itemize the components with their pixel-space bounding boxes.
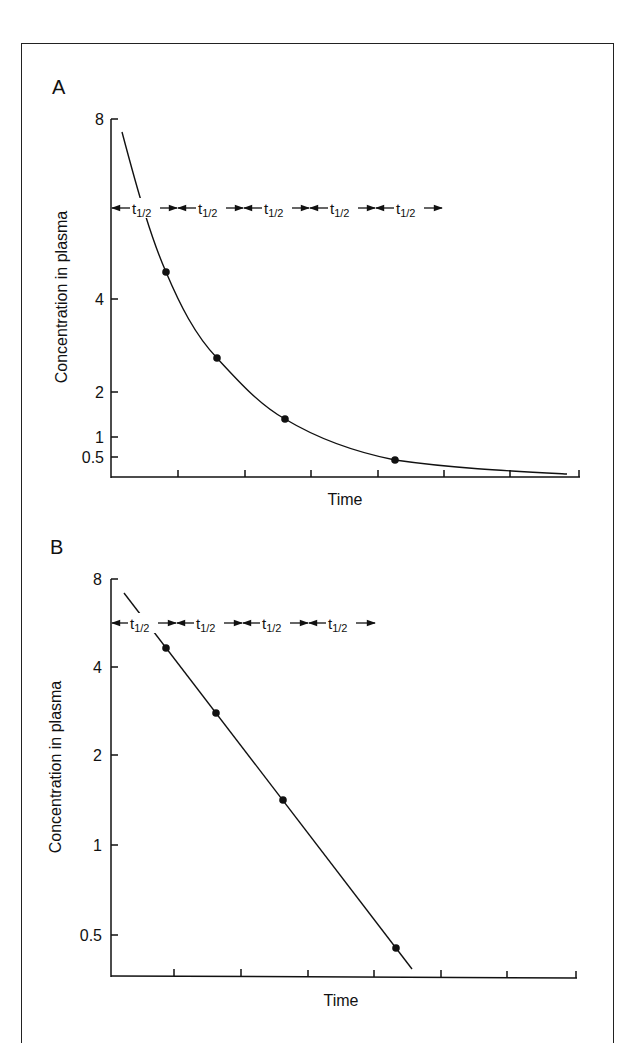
panel-a-ytick-1: 1 — [95, 429, 104, 446]
panel-b-x-axis — [111, 969, 577, 978]
panel-b-y-axis — [111, 579, 118, 977]
panel-a-data-points — [162, 268, 399, 464]
panel-a-ytick-0-5: 0.5 — [82, 449, 104, 466]
panel-b-point-3 — [279, 796, 287, 804]
panel-a-ytick-2: 2 — [95, 384, 104, 401]
panel-b-point-4 — [392, 944, 400, 952]
panel-a-point-2 — [213, 354, 221, 362]
panel-b-ytick-0-5: 0.5 — [80, 927, 102, 944]
panel-a-y-axis — [111, 119, 118, 478]
panel-a-y-axis-title: Concentration in plasma — [53, 211, 70, 384]
panel-b-ytick-2: 2 — [93, 747, 102, 764]
panel-a-point-3 — [281, 415, 289, 423]
panel-a-point-4 — [391, 456, 399, 464]
panel-b-ytick-1: 1 — [93, 837, 102, 854]
panel-b-point-2 — [212, 709, 220, 717]
panel-a: A 8 4 2 1 0.5 Concentration in plasma Ti… — [52, 76, 580, 508]
panel-b-x-axis-title: Time — [324, 992, 359, 1009]
panel-b-label: B — [50, 536, 63, 558]
panel-b: B 8 4 2 1 0.5 Concentration in plasma Ti… — [47, 536, 577, 1009]
panel-a-point-1 — [162, 268, 170, 276]
panel-a-ytick-4: 4 — [95, 291, 104, 308]
panel-a-ytick-8: 8 — [95, 111, 104, 128]
panel-b-ytick-8: 8 — [93, 571, 102, 588]
panel-a-half-life-arrows: t1/2 t1/2 t1/2 t1/2 t1/2 — [112, 198, 442, 219]
panel-b-y-axis-title: Concentration in plasma — [47, 681, 64, 854]
panel-a-label: A — [52, 76, 66, 98]
panel-a-x-axis-title: Time — [328, 491, 363, 508]
panel-a-decay-curve — [122, 132, 567, 474]
panel-b-point-1 — [162, 644, 170, 652]
panel-b-ytick-4: 4 — [93, 659, 102, 676]
panel-b-half-life-arrows: t1/2 t1/2 t1/2 t1/2 — [112, 613, 375, 634]
